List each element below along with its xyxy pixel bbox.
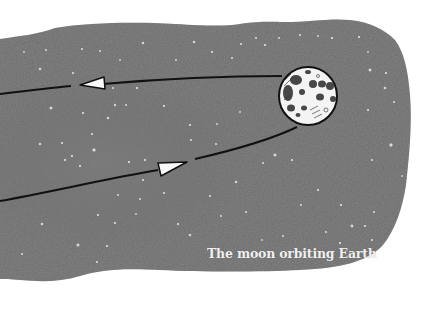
diagram-caption: The moon orbiting Earth [207,246,377,261]
moon-icon [279,67,337,125]
moon-orbit-illustration: The moon orbiting Earth [0,0,444,311]
sky-canvas [0,0,444,311]
night-sky-background [0,19,411,281]
